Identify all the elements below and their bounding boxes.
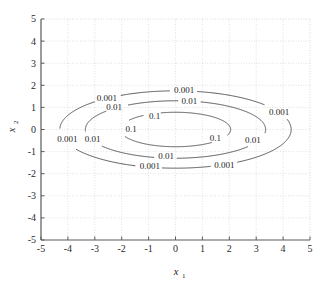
y-tick-label: 2 xyxy=(31,80,36,91)
contour-plot-figure: 0.0010.0010.0010.0010.0010.0010.010.010.… xyxy=(0,0,336,285)
x-tick-label: 0 xyxy=(173,243,178,254)
y-tick-label: 0 xyxy=(31,124,36,135)
x-tick-label: 3 xyxy=(254,243,259,254)
x-tick-label: 1 xyxy=(200,243,205,254)
y-tick-label: 4 xyxy=(31,36,36,47)
contour-line-level-0_001 xyxy=(162,166,210,168)
y-tick-label: -4 xyxy=(28,212,36,223)
x-axis-title-subscript: 1 xyxy=(182,272,186,280)
contour-label: 0.001 xyxy=(214,160,234,170)
contour-label: 0.001 xyxy=(140,161,160,171)
x-tick-label: 2 xyxy=(227,243,232,254)
y-axis-title-subscript: 2 xyxy=(12,120,20,124)
contour-label: 0.001 xyxy=(269,107,289,117)
x-axis-title-text: x xyxy=(173,266,179,277)
x-tick-label: 4 xyxy=(281,243,286,254)
contour-line-level-0_001 xyxy=(76,149,135,165)
x-tick-label: -4 xyxy=(64,243,72,254)
contour-line-level-0_1 xyxy=(125,137,211,147)
x-tick-label: -3 xyxy=(91,243,99,254)
y-axis-title-text: x xyxy=(6,127,17,133)
contour-line-level-0_01 xyxy=(102,146,154,157)
contour-line-level-0_001 xyxy=(60,102,95,128)
plot-canvas: 0.0010.0010.0010.0010.0010.0010.010.010.… xyxy=(0,0,336,285)
contour-line-level-0_01 xyxy=(177,147,247,158)
x-tick-label: -1 xyxy=(144,243,152,254)
y-tick-label: -1 xyxy=(28,146,36,157)
y-tick-label: 3 xyxy=(31,58,36,69)
y-tick-label: -5 xyxy=(28,234,36,245)
y-tick-label: 5 xyxy=(31,13,36,24)
contour-label: 0.001 xyxy=(174,85,194,95)
x-axis-title: x 1 xyxy=(173,266,186,280)
contour-line-level-0_01 xyxy=(201,102,266,133)
contour-line-level-0_1 xyxy=(130,116,144,120)
contour-label: 0.01 xyxy=(182,96,198,106)
y-tick-label: 1 xyxy=(31,102,36,113)
contour-label: 0.1 xyxy=(149,111,160,121)
x-tick-label: 5 xyxy=(308,243,313,254)
y-tick-label: -3 xyxy=(28,190,36,201)
x-tick-label: -2 xyxy=(118,243,126,254)
contour-label: 0.01 xyxy=(158,151,174,161)
contour-line-level-0_01 xyxy=(85,111,106,131)
contour-label: 0.1 xyxy=(210,133,221,143)
contour-line-level-0_01 xyxy=(128,101,177,105)
contour-line-level-0_1 xyxy=(161,112,230,135)
y-tick-label: -2 xyxy=(28,168,36,179)
contour-label: 0.001 xyxy=(57,134,77,144)
contour-label: 0.01 xyxy=(85,134,101,144)
x-tick-label: -5 xyxy=(37,243,45,254)
contour-label: 0.01 xyxy=(245,135,261,145)
contour-label: 0.1 xyxy=(125,124,136,134)
grid-lines xyxy=(41,19,310,240)
contour-label: 0.01 xyxy=(106,102,122,112)
y-axis-title: x 2 xyxy=(6,120,20,133)
contour-line-level-0_001 xyxy=(121,91,169,95)
